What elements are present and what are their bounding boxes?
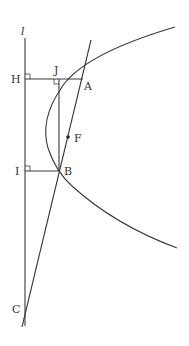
label-A: A (83, 80, 93, 93)
right-angle-marker-I (25, 166, 30, 171)
label-H: H (11, 73, 21, 86)
right-angle-marker-J (54, 79, 59, 84)
label-B: B (64, 165, 72, 178)
label-C: C (12, 303, 20, 316)
focus-point (66, 135, 70, 139)
focal-chord-line (22, 40, 91, 327)
geometry-diagram: l H J A F I B C (0, 0, 189, 346)
right-angle-marker-H (25, 74, 30, 79)
label-J: J (53, 64, 58, 77)
label-directrix: l (21, 25, 25, 38)
label-I: I (15, 165, 19, 178)
parabola (46, 27, 177, 248)
label-F: F (74, 132, 82, 145)
